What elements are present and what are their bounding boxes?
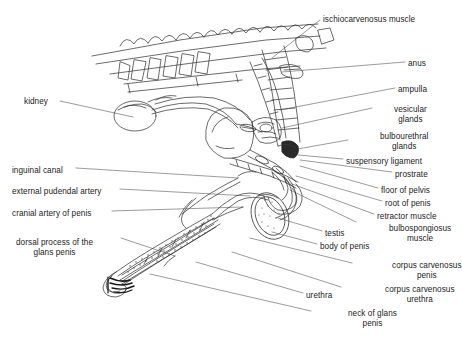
- label-line: glands: [380, 142, 428, 152]
- label-line: corpus carvenosus: [385, 285, 455, 295]
- label-line: bulbourethral: [380, 132, 428, 142]
- label-line: external pudendal artery: [12, 187, 102, 197]
- label-root-of-penis: root of penis: [385, 199, 431, 209]
- label-inguinal-canal: inguinal canal: [12, 166, 63, 176]
- label-urethra: urethra: [306, 291, 332, 301]
- label-line: vesicular: [394, 105, 427, 115]
- label-corpus-carvenosus-penis: corpus carvenosuspenis: [392, 261, 462, 280]
- label-line: corpus carvenosus: [392, 261, 462, 271]
- label-line: penis: [348, 319, 397, 329]
- label-line: body of penis: [320, 242, 369, 252]
- label-neck-of-glans-penis: neck of glanspenis: [348, 309, 397, 328]
- label-testis: testis: [325, 229, 344, 239]
- label-line: urethra: [385, 295, 455, 305]
- label-line: kidney: [24, 97, 48, 107]
- label-line: testis: [325, 229, 344, 239]
- label-bulbourethral-glands: bulbourethralglands: [380, 132, 428, 151]
- label-line: inguinal canal: [12, 166, 63, 176]
- label-line: ampulla: [398, 85, 427, 95]
- label-floor-of-pelvis: floor of pelvis: [381, 186, 430, 196]
- label-line: suspensory ligament: [346, 157, 422, 167]
- label-line: dorsal process of the: [16, 238, 93, 248]
- label-suspensory-ligament: suspensory ligament: [346, 157, 422, 167]
- label-line: muscle: [389, 234, 451, 244]
- label-line: ischiocarvenosus muscle: [323, 15, 415, 25]
- label-line: penis: [392, 271, 462, 281]
- label-ampulla: ampulla: [398, 85, 427, 95]
- label-line: urethra: [306, 291, 332, 301]
- label-vesicular-glands: vesicularglands: [394, 105, 427, 124]
- label-line: root of penis: [385, 199, 431, 209]
- label-line: prostrate: [395, 170, 428, 180]
- label-cranial-artery-of-penis: cranial artery of penis: [12, 209, 91, 219]
- label-retractor-muscle: retractor muscle: [377, 212, 437, 222]
- label-line: floor of pelvis: [381, 186, 430, 196]
- label-anus: anus: [408, 59, 426, 69]
- label-ischiocarvenosus-muscle: ischiocarvenosus muscle: [323, 15, 415, 25]
- label-line: retractor muscle: [377, 212, 437, 222]
- label-body-of-penis: body of penis: [320, 242, 369, 252]
- label-line: glans penis: [16, 248, 93, 258]
- label-line: bulbospongiosus: [389, 224, 451, 234]
- label-kidney: kidney: [24, 97, 48, 107]
- label-corpus-carvenosus-urethra: corpus carvenosusurethra: [385, 285, 455, 304]
- label-external-pudendal-artery: external pudendal artery: [12, 187, 102, 197]
- label-line: cranial artery of penis: [12, 209, 91, 219]
- label-line: neck of glans: [348, 309, 397, 319]
- label-bulbospongiosus-muscle: bulbospongiosusmuscle: [389, 224, 451, 243]
- label-dorsal-process-glans: dorsal process of theglans penis: [16, 238, 93, 257]
- label-prostrate: prostrate: [395, 170, 428, 180]
- label-line: anus: [408, 59, 426, 69]
- label-line: glands: [394, 115, 427, 125]
